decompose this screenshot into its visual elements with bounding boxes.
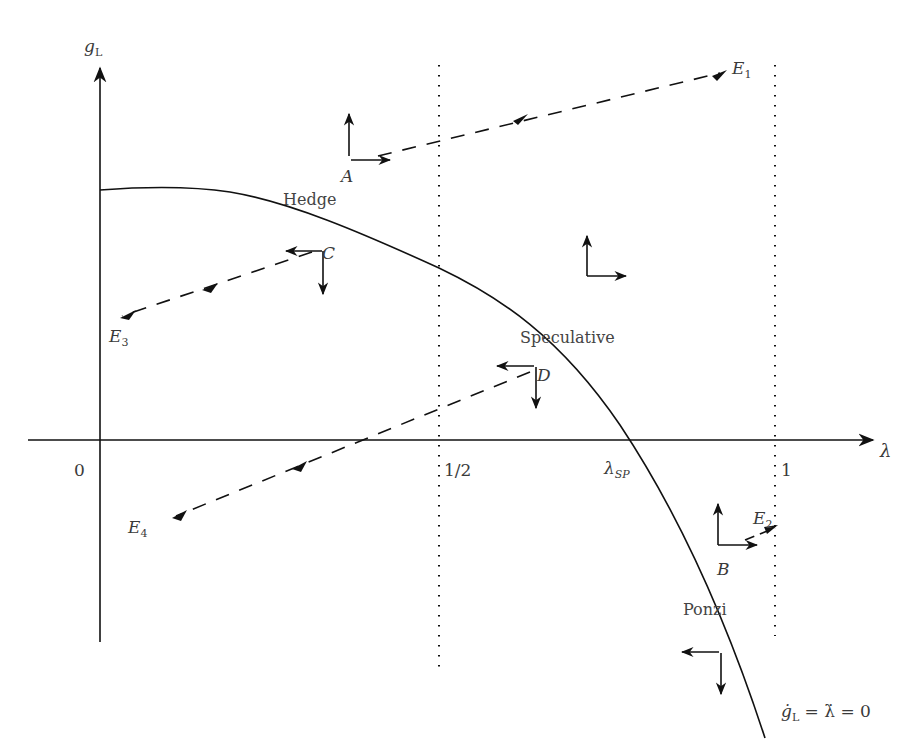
field-arrows-c: [286, 251, 323, 294]
y-axis-label: gL: [84, 38, 102, 58]
equilibrium-label-e3: E3: [109, 328, 128, 348]
point-label-a: A: [341, 168, 353, 185]
tick-label-half: 1/2: [444, 462, 471, 479]
equilibrium-label-e4: E4: [128, 519, 147, 539]
diagram-canvas: [0, 0, 913, 748]
phase-diagram: gL λ 0 1/2 λSP 1 Hedge Speculative Ponzi…: [0, 0, 913, 748]
nullcline-label: ġL = λ̇ = 0: [781, 703, 871, 723]
x-axis-label: λ: [880, 442, 891, 460]
region-label-speculative: Speculative: [520, 330, 615, 346]
region-label-ponzi: Ponzi: [683, 602, 727, 618]
arrowhead-icon: [712, 70, 727, 81]
trajectory-c-e3: [120, 252, 312, 320]
equilibrium-label-e2: E2: [753, 510, 772, 530]
field-arrows-a: [349, 114, 390, 160]
tick-label-lambda-sp: λSP: [604, 460, 630, 480]
point-label-b: B: [717, 561, 730, 578]
origin-label: 0: [74, 462, 85, 479]
arrowhead-icon: [172, 510, 187, 521]
field-arrows-d: [497, 366, 536, 408]
trajectory-d-e4: [172, 372, 530, 521]
field-arrows-speculative: [587, 236, 626, 276]
arrowhead-icon: [292, 461, 307, 472]
field-arrows-b: [718, 504, 757, 545]
arrowhead-icon: [120, 310, 136, 320]
equilibrium-label-e1: E1: [732, 60, 751, 80]
field-arrows-ponzi: [682, 652, 721, 694]
point-label-d: D: [537, 367, 551, 384]
region-label-hedge: Hedge: [283, 192, 336, 208]
trajectory-a-e1: [378, 70, 727, 156]
nullcline-curve: [100, 188, 765, 738]
tick-label-one: 1: [781, 462, 792, 479]
point-label-c: C: [322, 245, 335, 262]
